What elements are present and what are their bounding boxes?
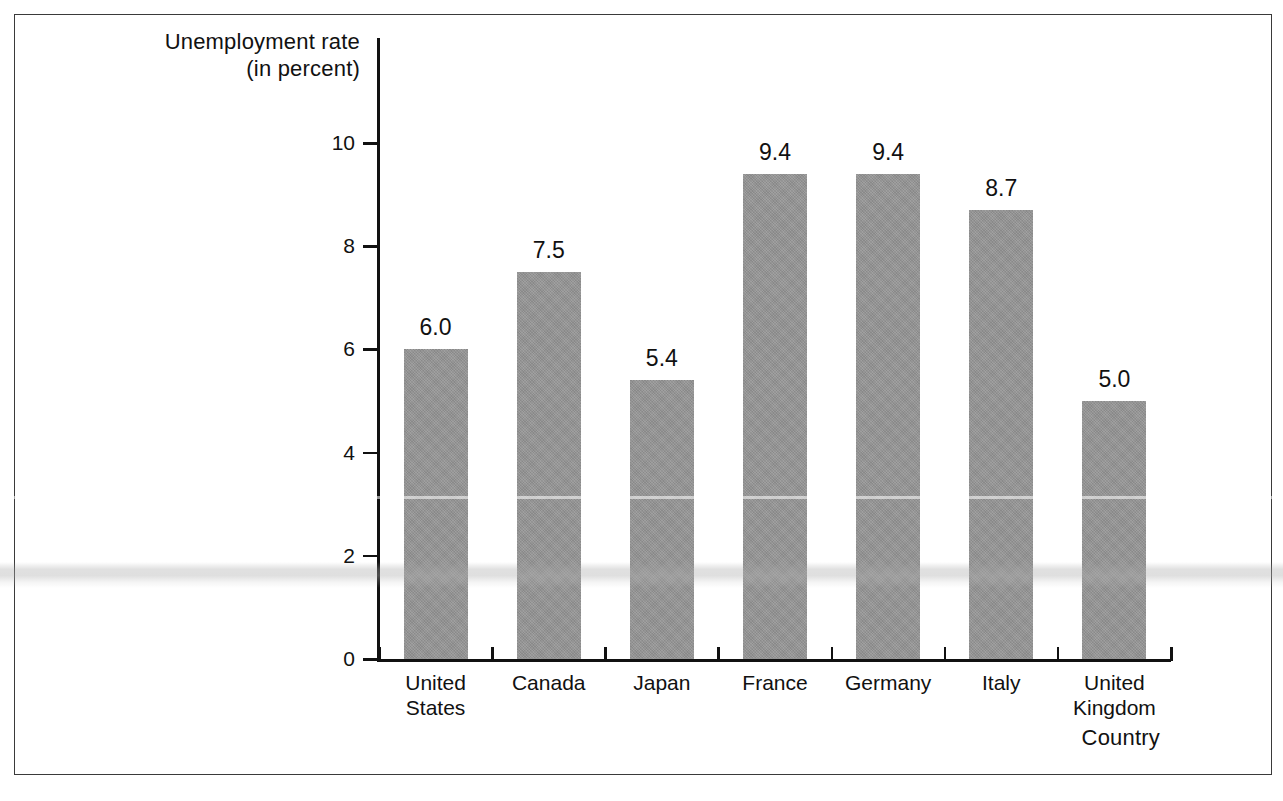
x-axis-label: Country: [960, 725, 1160, 751]
bar[interactable]: [969, 210, 1033, 659]
x-axis-tick: [604, 647, 607, 661]
bar[interactable]: [404, 349, 468, 659]
y-axis-tick-label: 2: [305, 545, 355, 566]
bar-value-label: 8.7: [951, 177, 1051, 200]
x-axis-tick: [944, 647, 947, 661]
x-axis-category-label-line: States: [379, 695, 492, 720]
bar-texture: [404, 349, 468, 659]
x-axis-category-label-line: United: [379, 670, 492, 695]
bar-texture: [630, 380, 694, 659]
y-axis-label-line2: (in percent): [60, 55, 360, 82]
y-axis-tick: [363, 452, 377, 455]
x-axis-category-label-line: Canada: [492, 670, 605, 695]
x-axis-category-label-line: Germany: [832, 670, 945, 695]
x-axis-tick: [1057, 647, 1060, 661]
bar-texture: [856, 174, 920, 659]
x-axis-tick: [831, 647, 834, 661]
x-axis-category-label-line: Kingdom: [1058, 695, 1171, 720]
bar-value-label: 7.5: [499, 239, 599, 262]
bar[interactable]: [856, 174, 920, 659]
bar-value-label: 6.0: [386, 316, 486, 339]
x-axis-category-label-line: France: [718, 670, 831, 695]
x-axis-category-label: Germany: [832, 670, 945, 695]
x-axis-category-label-line: Japan: [605, 670, 718, 695]
unemployment-bar-chart-figure: Unemployment rate (in percent) 0246810 6…: [0, 0, 1283, 801]
y-axis-tick-label: 4: [305, 442, 355, 463]
bar[interactable]: [517, 272, 581, 659]
x-axis-tick: [717, 647, 720, 661]
x-axis-tick: [491, 647, 494, 661]
x-axis-category-label: France: [718, 670, 831, 695]
y-axis-line: [377, 38, 380, 662]
x-axis-category-label: Japan: [605, 670, 718, 695]
bar-value-label: 5.0: [1064, 368, 1164, 391]
x-axis-tick: [1170, 647, 1173, 661]
y-axis-tick: [363, 348, 377, 351]
y-axis-label: Unemployment rate (in percent): [60, 28, 360, 82]
bar-texture: [517, 272, 581, 659]
y-axis-tick: [363, 245, 377, 248]
x-axis-category-label-line: United: [1058, 670, 1171, 695]
x-axis-category-label-line: Italy: [945, 670, 1058, 695]
y-axis-tick-label: 6: [305, 338, 355, 359]
x-axis-line: [377, 659, 1171, 662]
x-axis-tick: [378, 647, 381, 661]
y-axis-tick: [363, 658, 377, 661]
y-axis-tick: [363, 555, 377, 558]
y-axis-tick-label: 10: [305, 132, 355, 153]
bar-texture: [743, 174, 807, 659]
x-axis-category-label: UnitedStates: [379, 670, 492, 720]
x-axis-category-label: UnitedKingdom: [1058, 670, 1171, 720]
bar[interactable]: [1082, 401, 1146, 659]
x-axis-category-label: Italy: [945, 670, 1058, 695]
x-axis-category-label: Canada: [492, 670, 605, 695]
y-axis-tick-label: 8: [305, 235, 355, 256]
y-axis-tick-label: 0: [305, 648, 355, 669]
bar-texture: [969, 210, 1033, 659]
bar[interactable]: [743, 174, 807, 659]
bar-texture: [1082, 401, 1146, 659]
bar[interactable]: [630, 380, 694, 659]
bar-value-label: 9.4: [725, 141, 825, 164]
y-axis-tick: [363, 142, 377, 145]
bar-value-label: 9.4: [838, 141, 938, 164]
bar-value-label: 5.4: [612, 347, 712, 370]
y-axis-label-line1: Unemployment rate: [60, 28, 360, 55]
